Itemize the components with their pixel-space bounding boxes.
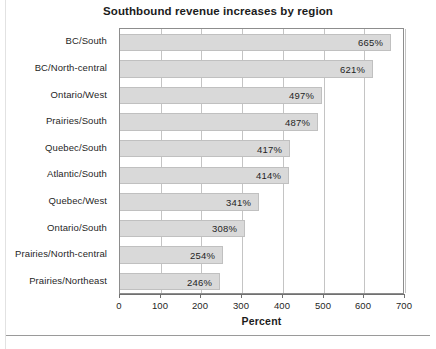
x-tick-label: 600 [355,300,371,311]
bar [120,60,373,78]
x-tick-mark [200,294,201,298]
chart-title: Southbound revenue increases by region [0,5,436,17]
bar-value-label: 497% [286,89,317,102]
category-label: Prairies/North-central [15,248,107,259]
bar-value-label: 417% [254,142,285,155]
bar-series: 665%621%497%487%417%414%341%308%254%246% [120,29,403,293]
category-label: Atlantic/South [47,168,107,179]
x-tick-label: 100 [152,300,168,311]
category-label: BC/North-central [35,62,107,73]
x-tick-mark [119,294,120,298]
category-axis-labels: BC/SouthBC/North-centralOntario/WestPrai… [0,28,113,294]
bar-value-label: 487% [282,116,313,129]
x-tick-label: 400 [274,300,290,311]
bar-value-label: 254% [187,249,218,262]
x-tick-label: 700 [396,300,412,311]
x-tick-label: 500 [315,300,331,311]
x-tick-mark [160,294,161,298]
bar-row: 487% [120,113,403,131]
bar-value-label: 621% [337,62,368,75]
x-tick-mark [404,294,405,298]
bar-value-label: 308% [209,222,240,235]
category-label: Quebec/West [49,195,107,206]
category-label: BC/South [66,35,107,46]
page-edge-bottom [6,335,430,336]
bar-value-label: 665% [355,36,386,49]
bar-value-label: 414% [253,169,284,182]
bar-row: 341% [120,193,403,211]
bar-row: 497% [120,87,403,105]
category-label: Quebec/South [45,142,107,153]
bar-row: 417% [120,140,403,158]
bar-row: 665% [120,34,403,52]
bar-row: 246% [120,273,403,291]
x-axis-title: Percent [119,315,404,327]
bar-value-label: 341% [223,195,254,208]
bar-row: 254% [120,246,403,264]
gridline [405,29,406,293]
bar-value-label: 246% [184,275,215,288]
category-label: Prairies/South [46,115,107,126]
x-tick-label: 200 [192,300,208,311]
x-tick-mark [323,294,324,298]
x-axis-line [119,294,404,295]
x-tick-mark [241,294,242,298]
category-label: Ontario/West [51,89,107,100]
x-tick-label: 0 [116,300,121,311]
x-tick-mark [363,294,364,298]
bar [120,34,391,52]
x-tick-label: 300 [233,300,249,311]
bar-row: 621% [120,60,403,78]
chart-figure: Southbound revenue increases by region B… [0,0,436,349]
category-label: Ontario/South [47,222,107,233]
plot-area: 665%621%497%487%417%414%341%308%254%246% [119,28,404,294]
bar-row: 308% [120,220,403,238]
x-tick-mark [282,294,283,298]
bar-row: 414% [120,167,403,185]
category-label: Prairies/Northeast [29,275,107,286]
